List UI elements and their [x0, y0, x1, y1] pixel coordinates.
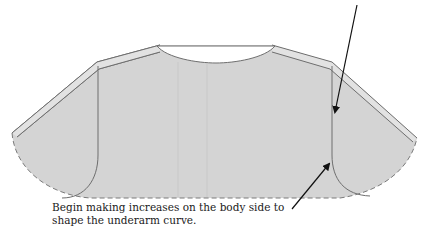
caption-line-2: shape the underarm curve. [52, 214, 312, 227]
caption-line-1: Begin making increases on the body side … [52, 201, 312, 214]
underarm-caption: Begin making increases on the body side … [52, 201, 312, 227]
garment-body [12, 45, 417, 198]
